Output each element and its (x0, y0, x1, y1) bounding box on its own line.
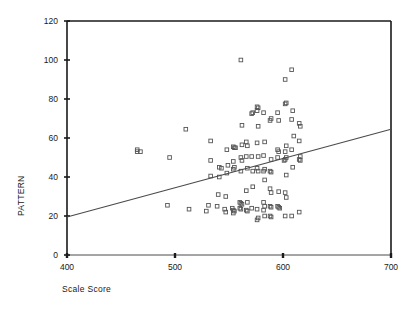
data-point (262, 208, 266, 212)
data-point (244, 140, 248, 144)
data-point (283, 78, 287, 82)
data-point (284, 144, 288, 148)
data-point (246, 201, 250, 205)
data-point (246, 144, 250, 148)
plot-frame (67, 21, 391, 255)
data-point (276, 156, 280, 160)
x-tick-label-500: 500 (168, 262, 182, 272)
data-point (262, 154, 266, 158)
y-tick-label-100: 100 (44, 55, 58, 65)
data-point (215, 204, 219, 208)
data-point (207, 203, 211, 207)
data-point (209, 139, 213, 143)
data-point (263, 140, 267, 144)
data-points-group (135, 58, 302, 222)
data-point (297, 210, 301, 214)
data-point (240, 124, 244, 128)
data-point (255, 207, 259, 211)
data-point (168, 156, 172, 160)
data-point (216, 193, 220, 197)
data-point (276, 111, 280, 115)
data-point (226, 164, 230, 168)
y-tick-label-20: 20 (49, 211, 59, 221)
data-point (262, 111, 266, 115)
data-point (291, 109, 295, 113)
data-point (268, 187, 272, 191)
data-point (251, 185, 255, 189)
data-point (292, 134, 296, 138)
plot-canvas: 0 20 40 60 80 100 120 400 500 600 700 PA… (0, 0, 417, 310)
data-point (290, 214, 294, 218)
data-point (263, 204, 267, 208)
data-point (250, 155, 254, 159)
data-point (251, 169, 255, 173)
data-point (284, 173, 288, 177)
data-point (263, 214, 267, 218)
data-point (269, 158, 273, 162)
data-point (269, 191, 273, 195)
data-point (256, 125, 260, 129)
data-point (250, 206, 254, 210)
y-axis-title: PATTERN (16, 175, 26, 216)
trend-line-group (67, 129, 391, 217)
x-tick-label-600: 600 (276, 262, 290, 272)
data-point (256, 155, 260, 159)
x-axis-tick-labels: 400 500 600 700 (60, 262, 398, 272)
data-point (166, 203, 170, 207)
data-point (232, 160, 236, 164)
data-point (205, 209, 209, 213)
data-point (255, 141, 259, 145)
regression-trend-line (67, 129, 391, 217)
data-point (290, 68, 294, 72)
data-point (184, 127, 188, 131)
data-point (283, 191, 287, 195)
data-point (263, 178, 267, 182)
scatter-plot-figure: 0 20 40 60 80 100 120 400 500 600 700 PA… (0, 0, 417, 310)
data-point (244, 155, 248, 159)
data-point (283, 150, 287, 154)
y-tick-label-40: 40 (49, 172, 59, 182)
data-point (284, 196, 288, 200)
y-tick-label-80: 80 (49, 94, 59, 104)
data-point (244, 189, 248, 193)
data-point (290, 148, 294, 152)
data-point (277, 119, 281, 123)
x-tick-label-700: 700 (384, 262, 398, 272)
data-point (239, 58, 243, 62)
y-tick-label-120: 120 (44, 16, 58, 26)
data-point (277, 190, 281, 194)
data-point (283, 214, 287, 218)
x-tick-label-400: 400 (60, 262, 74, 272)
data-point (297, 139, 301, 143)
y-axis-tick-labels: 0 20 40 60 80 100 120 (44, 16, 58, 260)
y-tick-label-0: 0 (53, 250, 58, 260)
data-point (225, 148, 229, 152)
data-point (262, 201, 266, 205)
data-point (224, 195, 228, 199)
data-point (209, 159, 213, 163)
data-point (187, 207, 191, 211)
data-point (240, 143, 244, 147)
x-axis-title: Scale Score (62, 284, 111, 294)
data-point (291, 165, 295, 169)
data-point (290, 118, 294, 122)
y-tick-label-60: 60 (49, 133, 59, 143)
